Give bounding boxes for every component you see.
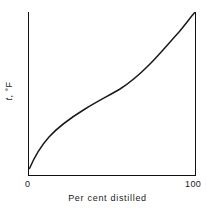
y-axis-title-units: , °F xyxy=(4,81,14,97)
y-axis-title: t, °F xyxy=(4,68,14,114)
plot-area xyxy=(28,12,196,176)
x-axis-title: Per cent distilled xyxy=(0,193,215,203)
x-tick-label-min: 0 xyxy=(25,179,30,189)
distillation-curve-figure: 0 100 Per cent distilled t, °F xyxy=(0,0,215,217)
distillation-curve-line xyxy=(28,12,196,176)
x-tick-label-max: 100 xyxy=(185,179,201,189)
